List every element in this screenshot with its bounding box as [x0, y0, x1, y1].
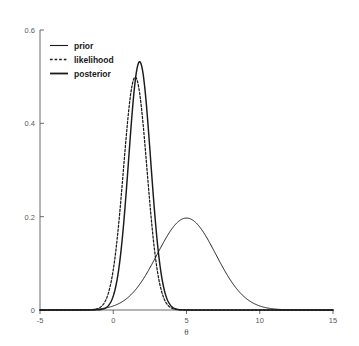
- chart-canvas: 0 0.2 0.4 0.6 -5 0 5 10 15 θ: [0, 0, 359, 346]
- legend-label-prior: prior: [74, 41, 94, 51]
- chart-background: [0, 0, 359, 346]
- y-tick-label-3: 0.6: [25, 26, 35, 35]
- x-tick-label-0: -5: [37, 316, 44, 325]
- x-tick-label-4: 15: [329, 316, 337, 325]
- y-tick-label-1: 0.2: [25, 213, 35, 222]
- legend-label-likelihood: likelihood: [74, 55, 114, 65]
- x-axis-title: θ: [184, 327, 188, 337]
- y-tick-label-0: 0: [31, 306, 35, 315]
- y-tick-label-2: 0.4: [25, 119, 35, 128]
- x-tick-label-2: 5: [184, 316, 188, 325]
- legend-label-posterior: posterior: [74, 69, 112, 79]
- x-tick-label-3: 10: [256, 316, 264, 325]
- x-tick-label-1: 0: [111, 316, 115, 325]
- bayesian-distribution-chart: 0 0.2 0.4 0.6 -5 0 5 10 15 θ: [0, 0, 359, 346]
